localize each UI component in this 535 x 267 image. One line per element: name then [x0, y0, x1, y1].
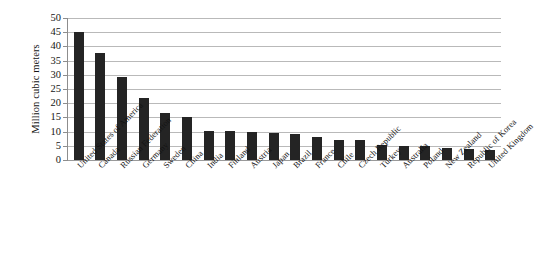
y-axis-tick-mark: [63, 32, 68, 33]
y-axis-tick-mark: [63, 146, 68, 147]
x-axis-tick-label: Brazil: [291, 148, 313, 170]
y-axis-tick-mark: [63, 61, 68, 62]
x-axis-tick-label: India: [205, 150, 225, 170]
y-axis-tick-mark: [63, 46, 68, 47]
x-axis-tick-label: France: [313, 146, 337, 170]
y-axis-tick-mark: [63, 18, 68, 19]
x-axis-tick-label: Finland: [226, 144, 252, 170]
x-axis-tick-label: Austria: [248, 145, 273, 170]
y-axis-tick-mark: [63, 89, 68, 90]
y-axis-tick-mark: [63, 103, 68, 104]
y-axis-tick-mark: [63, 160, 68, 161]
y-axis-tick-mark: [63, 117, 68, 118]
y-axis-tick-mark: [63, 132, 68, 133]
y-axis-tick-mark: [63, 75, 68, 76]
x-axis-tick-label: Chile: [335, 149, 356, 170]
